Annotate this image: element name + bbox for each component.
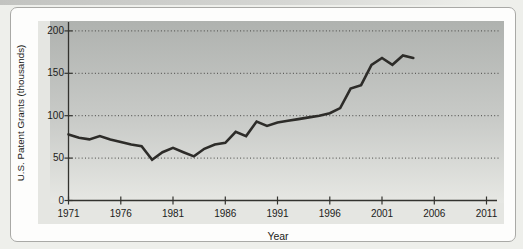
x-tick-label: 2006	[417, 208, 451, 220]
y-tick-label: 150	[34, 67, 64, 79]
x-tick-label: 1976	[104, 208, 138, 220]
y-tick-label: 50	[34, 152, 64, 164]
data-line	[69, 56, 414, 160]
x-tick-label: 1996	[313, 208, 347, 220]
y-tick-label: 200	[34, 25, 64, 37]
figure-card: U.S. Patent Grants (thousands) 197119761…	[10, 7, 516, 242]
x-tick-label: 1971	[52, 208, 86, 220]
x-axis-title: Year	[267, 230, 288, 242]
x-tick-label: 1991	[261, 208, 295, 220]
x-tick-label: 1986	[208, 208, 242, 220]
x-tick-label: 1981	[156, 208, 190, 220]
x-tick-label: 2001	[365, 208, 399, 220]
y-axis-title: U.S. Patent Grants (thousands)	[15, 45, 26, 182]
y-tick-label: 0	[34, 195, 64, 207]
y-tick-label: 100	[34, 110, 64, 122]
chart-canvas	[38, 21, 504, 224]
patent-grants-chart: 1971197619811986199119962001200620110501…	[38, 21, 504, 224]
page-top-shadow	[0, 0, 523, 5]
page: { "chart_data": { "type": "line", "title…	[0, 0, 523, 249]
x-tick-label: 2011	[470, 208, 504, 220]
